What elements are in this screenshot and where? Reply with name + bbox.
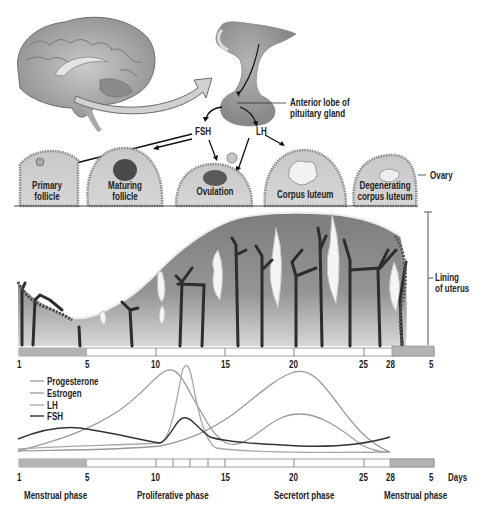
ovary-stage-primary-follicle: Primaryfollicle xyxy=(27,180,67,202)
bottom-tick-5-end: 5 xyxy=(429,472,433,483)
top-tick-1: 1 xyxy=(17,359,21,370)
ovary-stage-corpus-luteum: Corpus luteum xyxy=(277,189,333,200)
brain-illustration xyxy=(18,17,155,132)
phase-menstrual-end: Menstrual phase xyxy=(384,490,447,501)
bottom-tick-28: 28 xyxy=(386,472,395,483)
ovary-stage-degenerating-corpus-luteum: Degeneratingcorpus luteum xyxy=(357,180,413,202)
ovary-stage-maturing-follicle: Maturingfollicle xyxy=(105,180,145,202)
bottom-tick-15: 15 xyxy=(221,472,230,483)
top-day-axis xyxy=(19,346,434,356)
bottom-tick-1: 1 xyxy=(17,472,21,483)
top-tick-28: 28 xyxy=(386,359,395,370)
pituitary-gland xyxy=(216,22,296,126)
fsh-label: FSH xyxy=(195,126,211,137)
top-tick-10: 10 xyxy=(151,359,160,370)
phase-proliferative: Proliferative phase xyxy=(137,490,209,501)
days-axis-label: Days xyxy=(448,472,467,483)
pituitary-label: Anterior lobe ofpituitary gland xyxy=(290,97,350,119)
legend-estrogen: Estrogen xyxy=(47,388,82,399)
uterus-lining-label: Liningof uterus xyxy=(435,272,469,294)
bottom-tick-10: 10 xyxy=(151,472,160,483)
legend-lines xyxy=(30,381,44,416)
bottom-tick-25: 25 xyxy=(359,472,368,483)
top-tick-20: 20 xyxy=(289,359,298,370)
uterus-lining xyxy=(18,212,433,346)
legend-fsh: FSH xyxy=(47,411,63,422)
bottom-tick-5: 5 xyxy=(85,472,89,483)
lh-label: LH xyxy=(256,126,267,137)
fsh-curve xyxy=(18,418,390,447)
top-tick-5-end: 5 xyxy=(429,359,433,370)
ovary-stage-ovulation: Ovulation xyxy=(195,186,235,197)
top-tick-15: 15 xyxy=(221,359,230,370)
bottom-tick-20: 20 xyxy=(289,472,298,483)
legend-lh: LH xyxy=(47,400,58,411)
phase-menstrual: Menstrual phase xyxy=(24,490,87,501)
ovary-label: Ovary xyxy=(430,170,453,181)
top-tick-25: 25 xyxy=(359,359,368,370)
legend-progesterone: Progesterone xyxy=(47,376,99,387)
phase-secretory: Secretort phase xyxy=(274,490,334,501)
diagram-canvas xyxy=(0,0,488,518)
top-tick-5: 5 xyxy=(85,359,89,370)
bottom-day-axis xyxy=(19,459,434,467)
